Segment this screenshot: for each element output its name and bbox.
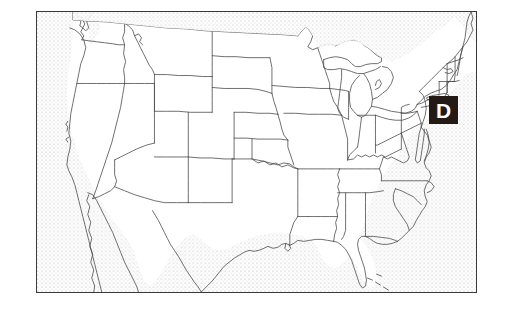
us-map-svg: [37, 12, 476, 292]
map-label-letter: D: [436, 100, 451, 121]
map-label-marker-d[interactable]: D: [429, 96, 458, 124]
map-title: Map of the contiguous United States with…: [0, 0, 1, 1]
map-frame: D: [36, 11, 477, 293]
us-outline-map-figure: D Map of the contiguous United States wi…: [0, 0, 507, 312]
